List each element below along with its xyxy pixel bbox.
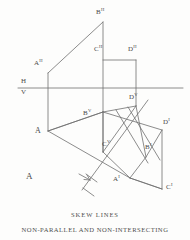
line-ab-v-projection bbox=[48, 112, 103, 131]
skew-lines-drawing bbox=[0, 0, 190, 240]
label-a-h: AH bbox=[34, 60, 43, 67]
iso-edge-bottom-right bbox=[130, 157, 146, 178]
label-c-v: CV bbox=[102, 141, 110, 148]
figure-root: AH BH CH DH H V A BV CV DV AI BI CI DI A… bbox=[0, 0, 190, 240]
label-d-h: DH bbox=[128, 46, 137, 53]
label-d-v: DV bbox=[129, 94, 138, 101]
label-d-i: DI bbox=[163, 119, 170, 126]
label-a-i: AI bbox=[113, 176, 120, 183]
caption-title: SKEW LINES bbox=[0, 211, 190, 218]
iso-band-line-2 bbox=[128, 107, 160, 160]
label-plane-a: A bbox=[26, 172, 33, 181]
label-c-h: CH bbox=[94, 46, 102, 53]
label-c-i: CI bbox=[166, 184, 173, 191]
plane-v-edge-bottom-left bbox=[48, 131, 130, 178]
label-b-v: BV bbox=[83, 110, 91, 117]
segment-ai-ci bbox=[130, 178, 162, 189]
iso-edge-top bbox=[103, 106, 136, 112]
label-b-h: BH bbox=[96, 9, 104, 16]
label-ground-h: H bbox=[21, 78, 26, 85]
trace-tick-lower bbox=[83, 188, 94, 196]
label-b-i: BI bbox=[145, 144, 152, 151]
label-a-v: A bbox=[35, 127, 41, 135]
trace-tick-upper bbox=[86, 174, 97, 182]
label-ground-v: V bbox=[21, 89, 26, 96]
direction-arrow-icon bbox=[79, 174, 90, 180]
caption-subtitle: NON-PARALLEL AND NON-INTERSECTING bbox=[0, 226, 190, 233]
